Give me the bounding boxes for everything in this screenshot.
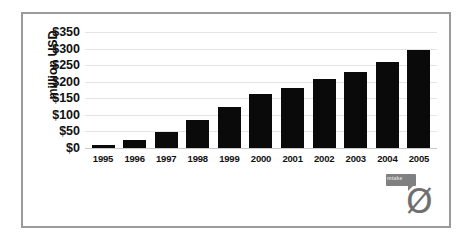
x-axis-tick-label: 1997 [152, 153, 180, 164]
bar [123, 140, 146, 148]
x-axis-ticks: 1995199619971998199920002001200220032004… [85, 153, 437, 164]
x-axis-tick-label: 1995 [89, 153, 117, 164]
bar [344, 72, 367, 148]
y-axis-tick-label: $150 [52, 91, 80, 105]
bar-slot [121, 32, 149, 148]
x-axis-tick-label: 2005 [405, 153, 433, 164]
plot-area: $0$50$100$150$200$250$300$350 [85, 32, 437, 148]
slashed-circle-icon: Ø [406, 186, 434, 216]
bar [313, 79, 336, 148]
bar-slot [342, 32, 370, 148]
chart-figure: million USD $0$50$100$150$200$250$300$35… [0, 0, 473, 242]
logo-bubble-label: mtake [387, 174, 402, 182]
bar [407, 50, 430, 148]
x-axis-baseline [85, 148, 437, 149]
bar-slot [310, 32, 338, 148]
bar-slot [279, 32, 307, 148]
x-axis-tick-label: 1996 [121, 153, 149, 164]
bar-slot [89, 32, 117, 148]
bar-slot [184, 32, 212, 148]
x-axis-tick-label: 2003 [342, 153, 370, 164]
x-axis-tick-label: 2000 [247, 153, 275, 164]
y-axis-tick-label: $350 [52, 25, 80, 39]
bar-series [85, 32, 437, 148]
x-axis-tick-label: 1999 [215, 153, 243, 164]
bar-slot [247, 32, 275, 148]
x-axis-tick-label: 1998 [184, 153, 212, 164]
bar-slot [152, 32, 180, 148]
bar-slot [373, 32, 401, 148]
bar [249, 94, 272, 148]
y-axis-tick-label: $100 [52, 108, 80, 122]
y-axis-tick-label: $0 [66, 141, 80, 155]
chart-frame: million USD $0$50$100$150$200$250$300$35… [21, 12, 451, 228]
y-axis-tick-label: $300 [52, 41, 80, 55]
y-axis-tick-label: $250 [52, 58, 80, 72]
bar [155, 132, 178, 148]
bar [281, 88, 304, 148]
bar [186, 120, 209, 148]
x-axis-tick-label: 2001 [279, 153, 307, 164]
bar [376, 62, 399, 148]
y-axis-tick-label: $200 [52, 74, 80, 88]
x-axis-tick-label: 2004 [373, 153, 401, 164]
x-axis-tick-label: 2002 [310, 153, 338, 164]
bar [92, 145, 115, 148]
watermark-logo: mtake Ø [384, 172, 440, 220]
bar-slot [215, 32, 243, 148]
y-axis-tick-label: $50 [59, 124, 80, 138]
bar [218, 107, 241, 148]
bar-slot [405, 32, 433, 148]
